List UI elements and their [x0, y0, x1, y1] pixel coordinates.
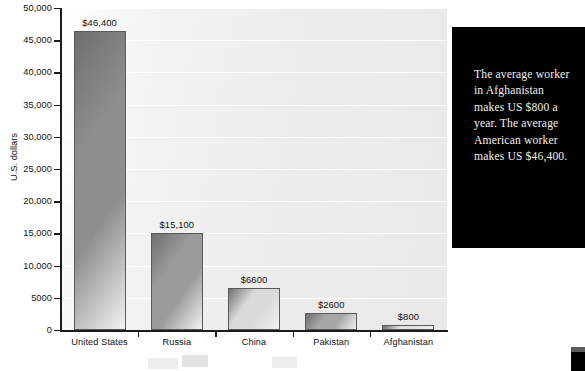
bar-value-label: $15,100	[160, 219, 195, 230]
bar-value-label: $2600	[318, 299, 345, 310]
y-axis-title: U.S. dollars	[9, 121, 19, 193]
bar-russia: $15,100	[151, 233, 203, 330]
y-axis-tick	[54, 201, 61, 202]
scan-artifact	[182, 355, 208, 367]
bar-united-states: $46,400	[74, 31, 126, 330]
x-axis-tick	[370, 331, 371, 337]
y-axis-tick	[54, 233, 61, 234]
x-axis-line	[60, 330, 448, 332]
bar-rect	[151, 233, 203, 330]
y-axis-tick	[54, 298, 61, 299]
bar-rect	[74, 31, 126, 330]
bar-value-label: $46,400	[82, 17, 117, 28]
category-label: United States	[71, 337, 127, 347]
y-axis-tick-label: 30,000	[23, 132, 52, 142]
y-axis-tick-labels: 0500010,00015,00020,00025,00030,00035,00…	[0, 0, 52, 371]
bar-value-label: $800	[398, 311, 419, 322]
bar-pakistan: $2600	[305, 313, 357, 330]
y-axis-tick-label: 20,000	[23, 196, 52, 206]
bar-rect	[382, 325, 434, 330]
y-axis-tick-label: 10,000	[23, 261, 52, 271]
scan-artifact	[272, 357, 297, 368]
category-label: China	[242, 337, 267, 347]
y-axis-tick	[54, 266, 61, 267]
x-axis-tick	[215, 331, 216, 337]
bar-afghanistan: $800	[382, 325, 434, 330]
gridline	[61, 8, 447, 9]
y-axis-tick	[54, 330, 61, 331]
category-label: Afghanistan	[384, 337, 434, 347]
y-axis-tick	[54, 40, 61, 41]
y-axis-tick-label: 5000	[31, 293, 52, 303]
x-axis-tick	[138, 331, 139, 337]
callout-text: The average worker in Afghanistan makes …	[474, 67, 571, 165]
category-label: Russia	[162, 337, 191, 347]
y-axis-tick	[54, 72, 61, 73]
y-axis-tick	[54, 137, 61, 138]
y-axis-tick	[54, 105, 61, 106]
x-axis-tick	[293, 331, 294, 337]
scan-artifact	[148, 358, 178, 369]
bar-value-label: $6600	[241, 274, 268, 285]
y-axis-tick-label: 25,000	[23, 164, 52, 174]
chart-figure: 0500010,00015,00020,00025,00030,00035,00…	[0, 0, 585, 371]
bar-rect	[228, 288, 280, 331]
y-axis-tick-label: 35,000	[23, 100, 52, 110]
y-axis-tick-label: 45,000	[23, 35, 52, 45]
bar-rect	[305, 313, 357, 330]
corner-swatch	[571, 352, 585, 371]
callout-box: The average worker in Afghanistan makes …	[452, 27, 585, 248]
y-axis-tick-label: 15,000	[23, 228, 52, 238]
y-axis-tick-label: 40,000	[23, 67, 52, 77]
y-axis-tick	[54, 169, 61, 170]
bar-china: $6600	[228, 288, 280, 331]
category-label: Pakistan	[313, 337, 349, 347]
y-axis-tick-label: 50,000	[23, 3, 52, 13]
y-axis-tick	[54, 8, 61, 9]
y-axis-tick-label: 0	[47, 325, 52, 335]
